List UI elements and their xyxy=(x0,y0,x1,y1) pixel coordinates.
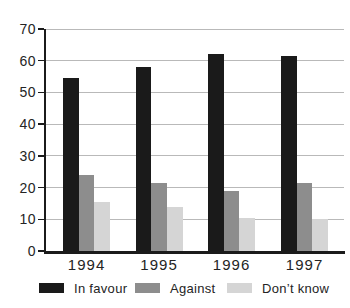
y-tick-10 xyxy=(38,219,44,221)
y-tick-label-10: 10 xyxy=(6,211,36,227)
bar-don-t-know-1994 xyxy=(94,202,110,251)
bar-don-t-know-1996 xyxy=(239,218,255,251)
plot-area: 0102030405060701994199519961997 xyxy=(0,0,350,308)
legend-item-don-t-know: Don’t know xyxy=(227,281,329,295)
legend-item-in-favour: In favour xyxy=(39,281,127,295)
y-tick-20 xyxy=(38,187,44,189)
y-tick-50 xyxy=(38,92,44,94)
y-tick-30 xyxy=(38,155,44,157)
bar-don-t-know-1997 xyxy=(312,219,328,251)
legend-swatch-against xyxy=(135,283,160,293)
x-axis-label-1996: 1996 xyxy=(202,256,262,274)
legend-item-against: Against xyxy=(135,281,215,295)
y-tick-label-0: 0 xyxy=(6,243,36,259)
y-tick-label-40: 40 xyxy=(6,116,36,132)
legend-label-in-favour: In favour xyxy=(74,281,127,296)
bar-against-1995 xyxy=(151,183,167,251)
legend-swatch-in-favour xyxy=(39,283,64,293)
y-tick-40 xyxy=(38,123,44,125)
y-tick-label-60: 60 xyxy=(6,53,36,69)
y-tick-60 xyxy=(38,60,44,62)
bar-in-favour-1996 xyxy=(208,54,224,251)
y-tick-label-50: 50 xyxy=(6,84,36,100)
bar-in-favour-1994 xyxy=(63,78,79,251)
legend-label-against: Against xyxy=(170,281,215,296)
gridline-40 xyxy=(44,124,344,125)
bar-in-favour-1995 xyxy=(136,67,152,251)
gridline-60 xyxy=(44,60,344,61)
y-axis xyxy=(44,29,46,253)
y-tick-label-20: 20 xyxy=(6,180,36,196)
bar-against-1994 xyxy=(79,175,95,251)
y-tick-label-70: 70 xyxy=(6,21,36,37)
bar-in-favour-1997 xyxy=(281,56,297,251)
gridline-30 xyxy=(44,155,344,156)
legend-swatch-don-t-know xyxy=(227,283,252,293)
bar-against-1996 xyxy=(224,191,240,251)
bar-against-1997 xyxy=(297,183,313,251)
x-axis-label-1997: 1997 xyxy=(275,256,335,274)
gridline-70 xyxy=(44,29,344,30)
y-tick-0 xyxy=(38,250,44,252)
bar-don-t-know-1995 xyxy=(167,207,183,251)
x-axis-label-1995: 1995 xyxy=(129,256,189,274)
legend: In favourAgainstDon’t know xyxy=(0,279,350,297)
x-axis xyxy=(44,251,345,254)
gridline-50 xyxy=(44,92,344,93)
y-tick-70 xyxy=(38,28,44,30)
y-tick-label-30: 30 xyxy=(6,148,36,164)
bar-chart-figure: 0102030405060701994199519961997 In favou… xyxy=(0,0,350,308)
x-axis-label-1994: 1994 xyxy=(57,256,117,274)
legend-label-don-t-know: Don’t know xyxy=(262,281,329,296)
